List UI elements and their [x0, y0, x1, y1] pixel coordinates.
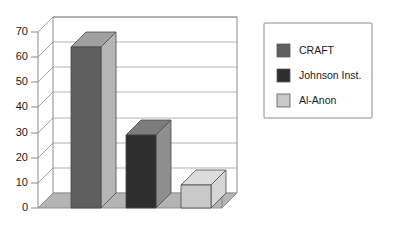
y-tick-label: 30 — [16, 126, 28, 138]
bar-craft-side — [101, 32, 116, 208]
legend-label-johnson-inst: Johnson Inst. — [299, 69, 361, 81]
legend-swatch-johnson-inst — [277, 69, 290, 82]
y-tick-0: 0 — [22, 201, 38, 213]
y-tick-70: 70 — [16, 25, 38, 37]
y-tick-label: 40 — [16, 100, 28, 112]
legend-item-al-anon[interactable]: Al-Anon — [277, 94, 337, 107]
y-tick-10: 10 — [16, 176, 38, 188]
y-tick-50: 50 — [16, 75, 38, 87]
bar-craft-front — [71, 47, 101, 208]
legend-label-al-anon: Al-Anon — [299, 94, 337, 106]
bar-craft[interactable] — [71, 32, 116, 208]
bar-johnson-front — [126, 135, 156, 208]
bar-johnson-side — [156, 120, 171, 208]
bar-johnson-inst[interactable] — [126, 120, 171, 208]
legend-swatch-craft — [277, 44, 290, 57]
y-tick-label: 50 — [16, 75, 28, 87]
y-tick-60: 60 — [16, 50, 38, 62]
y-tick-20: 20 — [16, 151, 38, 163]
y-tick-label: 0 — [22, 201, 28, 213]
chart-legend: CRAFT Johnson Inst. Al-Anon — [264, 23, 372, 118]
y-tick-label: 60 — [16, 50, 28, 62]
y-tick-30: 30 — [16, 126, 38, 138]
y-tick-label: 70 — [16, 25, 28, 37]
legend-swatch-al-anon — [277, 94, 290, 107]
legend-label-craft: CRAFT — [299, 44, 335, 56]
legend-item-craft[interactable]: CRAFT — [277, 44, 335, 57]
y-axis: 70 60 50 40 30 20 — [16, 25, 38, 213]
depth-lines — [38, 17, 53, 208]
bar-alanon-front — [181, 185, 211, 208]
chart-container: 70 60 50 40 30 20 — [0, 0, 393, 231]
y-tick-label: 10 — [16, 176, 28, 188]
legend-item-johnson-inst[interactable]: Johnson Inst. — [277, 69, 361, 82]
y-tick-label: 20 — [16, 151, 28, 163]
bar-chart: 70 60 50 40 30 20 — [0, 0, 393, 231]
y-tick-40: 40 — [16, 100, 38, 112]
